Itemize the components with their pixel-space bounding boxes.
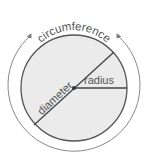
circle-parts-diagram: circumference diameter radius: [0, 0, 148, 166]
circumference-arrow-right: [117, 34, 118, 36]
radius-label: radius: [84, 74, 114, 86]
circumference-arrow-left: [30, 34, 31, 36]
